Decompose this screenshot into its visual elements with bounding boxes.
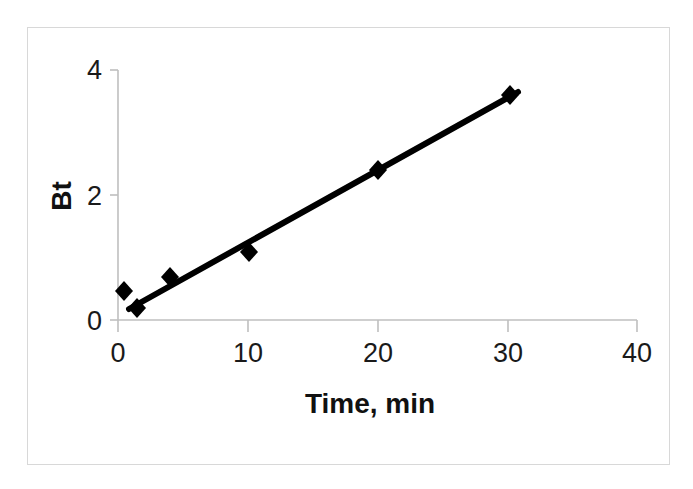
chart-figure: 4 2 0 0 10 20 30 40 Time, min Bt [0, 0, 693, 489]
x-tick-label-30: 30 [493, 340, 523, 367]
x-tick-label-40: 40 [622, 340, 652, 367]
x-tick-label-10: 10 [233, 340, 263, 367]
y-tick-label-0: 0 [87, 308, 102, 335]
x-tick-label-20: 20 [363, 340, 393, 367]
trendline [129, 92, 518, 309]
y-axis-title: Bt [46, 181, 78, 211]
y-tick-label-4: 4 [87, 57, 102, 84]
x-axis-ticks [118, 320, 637, 332]
y-tick-label-2: 2 [87, 183, 102, 210]
y-axis-ticks [110, 70, 118, 320]
x-tick-label-0: 0 [110, 340, 125, 367]
x-axis-title: Time, min [305, 388, 435, 420]
